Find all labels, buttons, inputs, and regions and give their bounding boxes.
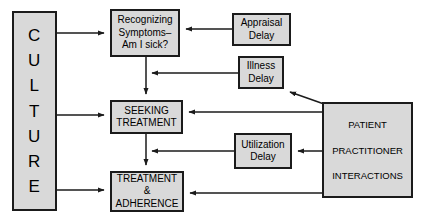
ppi-line-1: PATIENT (348, 119, 387, 130)
edge-ppi-illness (290, 92, 324, 104)
node-appraisal-delay[interactable]: Appraisal Delay (232, 13, 291, 46)
appraisal-line-1: Appraisal (241, 17, 283, 30)
node-illness-delay[interactable]: Illness Delay (238, 56, 284, 89)
node-patient-practitioner-interactions[interactable]: PATIENT PRACTITIONER INTERACTIONS (322, 102, 413, 198)
node-seeking-treatment[interactable]: SEEKING TREATMENT (110, 100, 183, 134)
ppi-line-3: INTERACTIONS (332, 170, 403, 181)
culture-letter-u1: U (28, 52, 41, 69)
culture-letter-u2: U (28, 128, 41, 145)
recognizing-line-2: Symptoms– (119, 27, 172, 40)
seeking-line-2: TREATMENT (116, 117, 176, 130)
seeking-line-1: SEEKING (124, 105, 168, 118)
treatment-line-1: TREATMENT (117, 173, 177, 186)
ppi-line-2: PRACTITIONER (332, 145, 403, 156)
flow-diagram: C U L T U R E Recognizing Symptoms– Am I… (0, 0, 423, 224)
utilization-line-1: Utilization (241, 139, 284, 152)
treatment-line-2: & (144, 185, 151, 198)
culture-letter-t: T (29, 103, 40, 120)
culture-letter-r: R (28, 153, 41, 170)
culture-letter-e: E (29, 178, 41, 195)
recognizing-line-1: Recognizing (117, 14, 172, 27)
node-culture[interactable]: C U L T U R E (12, 11, 57, 211)
illness-line-1: Illness (247, 60, 275, 73)
node-recognizing-symptoms[interactable]: Recognizing Symptoms– Am I sick? (110, 9, 180, 57)
treatment-line-3: ADHERENCE (116, 198, 179, 211)
appraisal-line-2: Delay (249, 30, 275, 43)
culture-letter-l: L (30, 77, 40, 94)
node-treatment-adherence[interactable]: TREATMENT & ADHERENCE (110, 171, 184, 212)
utilization-line-2: Delay (250, 151, 276, 164)
node-utilization-delay[interactable]: Utilization Delay (234, 133, 292, 169)
illness-line-2: Delay (248, 73, 274, 86)
recognizing-line-3: Am I sick? (122, 39, 168, 52)
culture-letter-c: C (28, 27, 41, 44)
